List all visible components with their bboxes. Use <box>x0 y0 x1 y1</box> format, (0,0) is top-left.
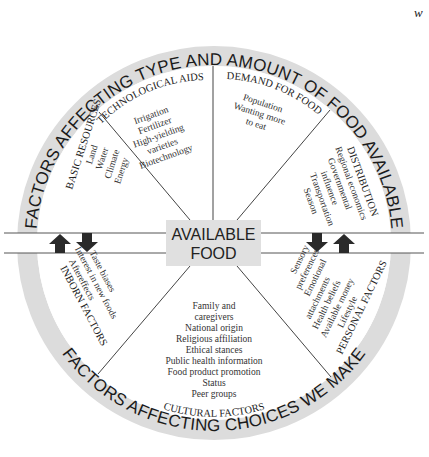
center-label-line1: AVAILABLE <box>172 226 256 243</box>
food-choice-diagram: w AVAILABLE FOOD FACTORS AFFECTING TYPE … <box>0 0 429 457</box>
section-item: caregivers <box>194 312 233 322</box>
section-item: Food product promotion <box>168 367 261 377</box>
section-item: Peer groups <box>191 389 236 399</box>
section-item: Religious affiliation <box>176 334 252 344</box>
section-item: Ethical stances <box>186 345 243 355</box>
center-label-line2: FOOD <box>190 245 236 262</box>
section-item: Family and <box>192 301 235 311</box>
section-item: National origin <box>185 323 243 333</box>
section-item: Status <box>202 378 226 388</box>
section-item: Public health information <box>165 356 262 366</box>
corner-mark: w <box>414 5 423 20</box>
